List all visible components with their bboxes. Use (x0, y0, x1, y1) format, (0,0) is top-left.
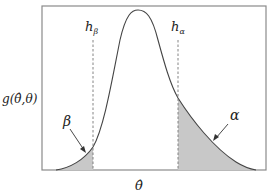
density-curve (56, 10, 256, 170)
beta-arrowhead-icon (80, 146, 86, 153)
plot-frame (42, 6, 266, 170)
beta-region (56, 147, 93, 170)
alpha-arrow (216, 124, 228, 138)
x-axis-label: θ̂ (135, 178, 143, 193)
beta-label: β (62, 113, 71, 129)
h-beta-label: hβ (85, 19, 98, 36)
alpha-label: α (230, 107, 240, 123)
alpha-region (178, 98, 256, 170)
beta-arrow (70, 129, 84, 150)
y-axis-label: g(θ̂,θ) (2, 92, 38, 106)
distribution-diagram: hβ hα β α g(θ̂,θ) θ̂ (0, 0, 270, 194)
h-alpha-label: hα (171, 19, 185, 36)
